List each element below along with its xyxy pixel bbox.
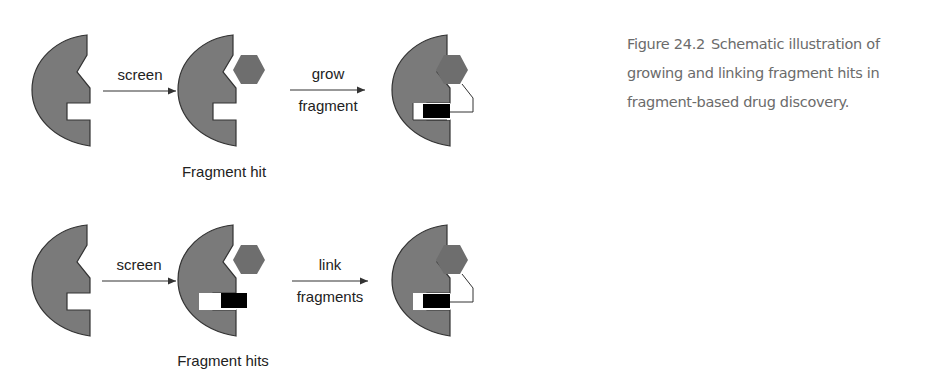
linked-complex — [392, 225, 473, 336]
figure-number: Figure 24.2 — [627, 36, 705, 52]
protein-target-6 — [392, 225, 450, 336]
screen-label-1: screen — [117, 66, 162, 83]
linker-line — [450, 84, 473, 112]
fragments-label: fragments — [297, 288, 364, 305]
protein-target-5 — [178, 225, 236, 336]
fragment-hit-label: Fragment hit — [182, 163, 267, 180]
grown-complex — [392, 35, 473, 146]
fragment-hits-label: Fragment hits — [177, 352, 269, 369]
protein-target-3 — [392, 35, 450, 146]
link-label: link — [319, 256, 342, 273]
fragment-hits-complex — [178, 225, 265, 336]
fragment-rect-1 — [423, 104, 450, 118]
fragment-rect-2 — [221, 293, 247, 308]
figure-caption: Figure 24.2Schematic illustration of gro… — [627, 30, 937, 117]
protein-target-1 — [32, 35, 90, 146]
fragment-label: fragment — [298, 97, 358, 114]
protein-target-2 — [178, 35, 236, 146]
grow-label: grow — [312, 65, 345, 82]
screen-label-2: screen — [116, 256, 161, 273]
fragment-rect-3 — [423, 294, 450, 308]
linker-line-2 — [450, 274, 473, 302]
row-growing: screen Fragment hit grow fragment — [32, 35, 473, 180]
row-linking: screen Fragment hits link fragments — [32, 225, 473, 369]
protein-target-4 — [32, 225, 90, 336]
fragment-hexagon-3 — [233, 245, 265, 274]
fragment-hexagon-1 — [233, 55, 265, 84]
